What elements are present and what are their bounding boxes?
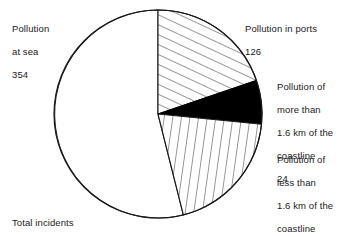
label-sea-line2: at sea (12, 46, 49, 58)
pie-chart-figure: Pollution at sea 354 Pollution in ports … (0, 0, 350, 237)
label-pollution-less-than-1-6-km: Pollution of less than 1.6 km of the coa… (277, 142, 333, 237)
label-less-line1: Pollution of (277, 154, 333, 166)
label-sea-line1: Pollution (12, 23, 49, 35)
label-pollution-at-sea: Pollution at sea 354 (12, 11, 49, 92)
label-ports-value: 126 (245, 46, 317, 58)
label-pollution-in-ports: Pollution in ports 126 (245, 11, 317, 69)
label-more-line3: 1.6 km of the (277, 127, 333, 139)
label-less-line2: less than (277, 177, 333, 189)
label-sea-value: 354 (12, 69, 49, 81)
label-less-line4: coastline (277, 223, 333, 235)
label-more-line1: Pollution of (277, 81, 333, 93)
label-total-line1: Total incidents (12, 217, 74, 229)
label-less-line3: 1.6 km of the (277, 200, 333, 212)
label-ports-line1: Pollution in ports (245, 23, 317, 35)
label-total-incidents: Total incidents 638 (12, 205, 74, 237)
label-more-line2: more than (277, 104, 333, 116)
